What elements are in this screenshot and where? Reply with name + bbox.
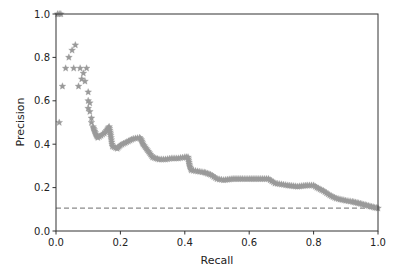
x-tick-label: 0.4 bbox=[177, 237, 193, 248]
star-marker bbox=[62, 65, 69, 72]
star-marker bbox=[65, 54, 72, 61]
x-tick-label: 0.2 bbox=[112, 237, 128, 248]
plot-area bbox=[54, 10, 381, 211]
precision-recall-chart: 0.00.20.40.60.81.0 0.00.20.40.60.81.0 Re… bbox=[0, 0, 400, 278]
y-tick-label: 0.4 bbox=[34, 139, 50, 150]
star-marker bbox=[69, 47, 76, 54]
y-axis-ticks: 0.00.20.40.60.81.0 bbox=[34, 9, 56, 237]
x-axis-ticks: 0.00.20.40.60.81.0 bbox=[48, 231, 386, 248]
x-axis-label: Recall bbox=[201, 254, 234, 267]
y-tick-label: 0.0 bbox=[34, 226, 50, 237]
y-axis-label: Precision bbox=[14, 97, 27, 146]
y-tick-label: 0.2 bbox=[34, 182, 50, 193]
star-marker bbox=[72, 41, 79, 48]
star-marker bbox=[59, 83, 66, 90]
x-tick-label: 0.0 bbox=[48, 237, 64, 248]
series-precision-recall bbox=[54, 10, 381, 211]
y-tick-label: 0.6 bbox=[34, 95, 50, 106]
star-marker bbox=[77, 65, 84, 72]
y-tick-label: 0.8 bbox=[34, 52, 50, 63]
star-marker bbox=[83, 65, 90, 72]
x-tick-label: 0.8 bbox=[306, 237, 322, 248]
star-marker bbox=[80, 70, 87, 77]
y-tick-label: 1.0 bbox=[34, 9, 50, 20]
star-marker bbox=[85, 89, 92, 96]
star-marker bbox=[70, 65, 77, 72]
x-tick-label: 0.6 bbox=[241, 237, 257, 248]
star-marker bbox=[75, 83, 82, 90]
x-tick-label: 1.0 bbox=[370, 237, 386, 248]
star-marker bbox=[88, 119, 95, 126]
star-marker bbox=[56, 119, 63, 126]
